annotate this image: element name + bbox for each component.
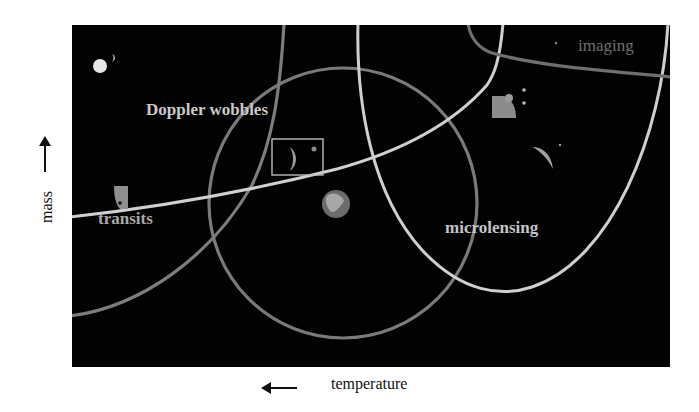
arrow-up-icon bbox=[35, 134, 55, 174]
highlight-box bbox=[272, 139, 323, 175]
doppler-wobbles-label: Doppler wobbles bbox=[146, 100, 268, 120]
transit-planet-icon bbox=[114, 186, 128, 209]
detection-methods-diagram: Doppler wobbles transits microlensing im… bbox=[0, 0, 699, 412]
microlensing-label: microlensing bbox=[445, 218, 538, 238]
crescent-right-icon bbox=[533, 147, 553, 169]
bright-planet-icon bbox=[93, 59, 107, 73]
transits-label: transits bbox=[98, 209, 153, 229]
tiny-star-2-icon bbox=[555, 42, 557, 44]
x-axis: temperature bbox=[255, 372, 455, 402]
microlensing-boundary-curve bbox=[358, 25, 668, 292]
giant-planet-moon-icon bbox=[505, 94, 513, 102]
tiny-crescent-icon bbox=[112, 54, 115, 62]
transit-spot-icon bbox=[118, 201, 122, 205]
moon-dot-2-icon bbox=[522, 101, 526, 105]
x-axis-label: temperature bbox=[331, 375, 407, 393]
imaging-label: imaging bbox=[578, 36, 634, 56]
y-axis: mass bbox=[22, 120, 72, 230]
curves-layer bbox=[72, 25, 670, 367]
tiny-star-icon bbox=[559, 144, 561, 146]
y-axis-label: mass bbox=[38, 187, 56, 227]
crescent-planet-icon bbox=[290, 147, 296, 171]
doppler-boundary-curve bbox=[72, 25, 503, 217]
arrow-left-icon bbox=[259, 378, 299, 398]
small-moon-icon bbox=[312, 147, 317, 152]
diagram-panel: Doppler wobbles transits microlensing im… bbox=[72, 25, 670, 367]
moon-dot-1-icon bbox=[522, 88, 526, 92]
